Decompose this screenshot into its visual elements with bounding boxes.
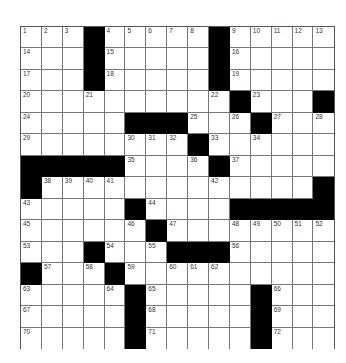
crossword-cell[interactable]: 2 bbox=[42, 27, 63, 48]
crossword-cell[interactable] bbox=[84, 113, 105, 134]
crossword-cell[interactable] bbox=[293, 48, 314, 69]
crossword-cell[interactable] bbox=[272, 48, 293, 69]
crossword-cell[interactable] bbox=[63, 263, 84, 284]
crossword-cell[interactable]: 67 bbox=[21, 306, 42, 327]
crossword-cell[interactable] bbox=[293, 285, 314, 306]
crossword-cell[interactable] bbox=[125, 91, 146, 112]
crossword-cell[interactable]: 65 bbox=[146, 285, 167, 306]
crossword-cell[interactable]: 47 bbox=[167, 220, 188, 241]
crossword-cell[interactable] bbox=[313, 156, 334, 177]
crossword-cell[interactable]: 41 bbox=[105, 177, 126, 198]
crossword-cell[interactable]: 35 bbox=[125, 156, 146, 177]
crossword-cell[interactable]: 28 bbox=[313, 113, 334, 134]
crossword-cell[interactable]: 13 bbox=[313, 27, 334, 48]
crossword-cell[interactable] bbox=[209, 306, 230, 327]
crossword-cell[interactable] bbox=[188, 91, 209, 112]
crossword-cell[interactable] bbox=[167, 156, 188, 177]
crossword-cell[interactable] bbox=[63, 220, 84, 241]
crossword-cell[interactable]: 7 bbox=[167, 27, 188, 48]
crossword-cell[interactable]: 27 bbox=[272, 113, 293, 134]
crossword-cell[interactable]: 49 bbox=[251, 220, 272, 241]
crossword-cell[interactable] bbox=[42, 113, 63, 134]
crossword-cell[interactable] bbox=[272, 242, 293, 263]
crossword-cell[interactable] bbox=[42, 285, 63, 306]
crossword-cell[interactable] bbox=[313, 242, 334, 263]
crossword-cell[interactable]: 62 bbox=[209, 263, 230, 284]
crossword-cell[interactable]: 24 bbox=[21, 113, 42, 134]
crossword-cell[interactable] bbox=[230, 177, 251, 198]
crossword-cell[interactable] bbox=[167, 199, 188, 220]
crossword-cell[interactable]: 10 bbox=[251, 27, 272, 48]
crossword-cell[interactable]: 9 bbox=[230, 27, 251, 48]
crossword-cell[interactable]: 32 bbox=[167, 134, 188, 155]
crossword-cell[interactable] bbox=[230, 306, 251, 327]
crossword-cell[interactable]: 18 bbox=[105, 70, 126, 91]
crossword-cell[interactable] bbox=[209, 220, 230, 241]
crossword-cell[interactable] bbox=[313, 285, 334, 306]
crossword-cell[interactable]: 60 bbox=[167, 263, 188, 284]
crossword-cell[interactable] bbox=[42, 48, 63, 69]
crossword-cell[interactable] bbox=[293, 156, 314, 177]
crossword-cell[interactable] bbox=[63, 199, 84, 220]
crossword-cell[interactable] bbox=[313, 134, 334, 155]
crossword-cell[interactable]: 14 bbox=[21, 48, 42, 69]
crossword-cell[interactable] bbox=[230, 263, 251, 284]
crossword-cell[interactable] bbox=[230, 134, 251, 155]
crossword-cell[interactable] bbox=[63, 91, 84, 112]
crossword-cell[interactable]: 58 bbox=[84, 263, 105, 284]
crossword-cell[interactable]: 6 bbox=[146, 27, 167, 48]
crossword-cell[interactable]: 20 bbox=[21, 91, 42, 112]
crossword-cell[interactable] bbox=[105, 199, 126, 220]
crossword-cell[interactable]: 69 bbox=[272, 306, 293, 327]
crossword-cell[interactable]: 64 bbox=[105, 285, 126, 306]
crossword-cell[interactable] bbox=[272, 134, 293, 155]
crossword-cell[interactable] bbox=[167, 306, 188, 327]
crossword-cell[interactable] bbox=[84, 306, 105, 327]
crossword-cell[interactable] bbox=[146, 91, 167, 112]
crossword-cell[interactable] bbox=[63, 70, 84, 91]
crossword-cell[interactable]: 43 bbox=[21, 199, 42, 220]
crossword-cell[interactable] bbox=[251, 263, 272, 284]
crossword-cell[interactable] bbox=[42, 134, 63, 155]
crossword-cell[interactable]: 12 bbox=[293, 27, 314, 48]
crossword-cell[interactable]: 66 bbox=[272, 285, 293, 306]
crossword-cell[interactable]: 45 bbox=[21, 220, 42, 241]
crossword-cell[interactable]: 19 bbox=[230, 70, 251, 91]
crossword-cell[interactable] bbox=[293, 263, 314, 284]
crossword-cell[interactable] bbox=[293, 328, 314, 349]
crossword-cell[interactable] bbox=[105, 328, 126, 349]
crossword-cell[interactable]: 25 bbox=[188, 113, 209, 134]
crossword-cell[interactable] bbox=[42, 91, 63, 112]
crossword-cell[interactable]: 42 bbox=[209, 177, 230, 198]
crossword-cell[interactable]: 31 bbox=[146, 134, 167, 155]
crossword-cell[interactable] bbox=[272, 263, 293, 284]
crossword-cell[interactable]: 56 bbox=[230, 242, 251, 263]
crossword-cell[interactable]: 23 bbox=[251, 91, 272, 112]
crossword-cell[interactable] bbox=[188, 70, 209, 91]
crossword-cell[interactable]: 22 bbox=[209, 91, 230, 112]
crossword-cell[interactable] bbox=[209, 199, 230, 220]
crossword-cell[interactable] bbox=[272, 70, 293, 91]
crossword-cell[interactable] bbox=[42, 306, 63, 327]
crossword-cell[interactable] bbox=[167, 177, 188, 198]
crossword-cell[interactable]: 55 bbox=[146, 242, 167, 263]
crossword-cell[interactable] bbox=[63, 48, 84, 69]
crossword-cell[interactable]: 61 bbox=[188, 263, 209, 284]
crossword-cell[interactable] bbox=[209, 113, 230, 134]
crossword-cell[interactable]: 51 bbox=[293, 220, 314, 241]
crossword-cell[interactable] bbox=[105, 113, 126, 134]
crossword-cell[interactable]: 17 bbox=[21, 70, 42, 91]
crossword-cell[interactable] bbox=[167, 91, 188, 112]
crossword-cell[interactable] bbox=[167, 285, 188, 306]
crossword-cell[interactable]: 68 bbox=[146, 306, 167, 327]
crossword-cell[interactable] bbox=[125, 48, 146, 69]
crossword-cell[interactable] bbox=[84, 199, 105, 220]
crossword-cell[interactable] bbox=[125, 177, 146, 198]
crossword-cell[interactable] bbox=[313, 263, 334, 284]
crossword-cell[interactable] bbox=[167, 70, 188, 91]
crossword-cell[interactable] bbox=[105, 134, 126, 155]
crossword-cell[interactable] bbox=[167, 328, 188, 349]
crossword-cell[interactable] bbox=[84, 220, 105, 241]
crossword-cell[interactable]: 21 bbox=[84, 91, 105, 112]
crossword-cell[interactable] bbox=[188, 177, 209, 198]
